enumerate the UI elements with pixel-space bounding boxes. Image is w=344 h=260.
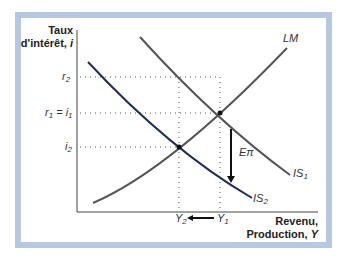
label-is2: IS2 bbox=[253, 192, 268, 206]
output-arrow-head-icon bbox=[187, 215, 193, 221]
equilibrium-point-1 bbox=[218, 111, 223, 116]
is1-curve bbox=[140, 37, 290, 175]
lm-curve bbox=[93, 48, 287, 203]
equilibrium-point-2 bbox=[177, 145, 182, 150]
label-lm: LM bbox=[283, 32, 298, 44]
x-axis-title: Revenu, Production, Y bbox=[235, 215, 318, 241]
tick-r1-i1: r1 = i1 bbox=[45, 106, 73, 120]
label-e-pi: Eπ bbox=[239, 146, 254, 158]
is2-curve bbox=[88, 62, 252, 198]
shift-arrow-head-icon bbox=[227, 176, 235, 183]
tick-r2: r2 bbox=[62, 70, 70, 84]
tick-y1: Y1 bbox=[217, 212, 229, 226]
y-axis-title: Taux d'intérêt, i bbox=[20, 24, 73, 50]
tick-y2: Y2 bbox=[175, 212, 187, 226]
label-is1: IS1 bbox=[293, 167, 308, 181]
tick-i2: i2 bbox=[65, 140, 72, 154]
